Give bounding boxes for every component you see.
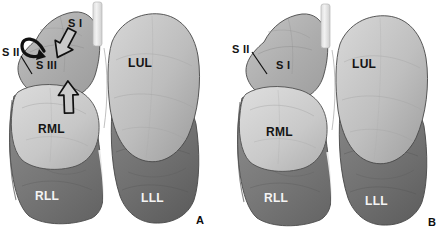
left-upper-lobe <box>108 14 200 162</box>
right-middle-lobe <box>239 87 327 172</box>
panel-a-image <box>0 0 212 237</box>
panel-b: S II S I RML LUL RLL LLL B <box>222 0 443 237</box>
panel-b-image <box>222 0 443 237</box>
trachea <box>93 2 102 46</box>
left-upper-lobe <box>336 16 428 164</box>
right-middle-lobe <box>11 85 99 170</box>
trachea <box>321 4 330 48</box>
lung-segment-figure: S II S III S I RML LUL RLL LLL A <box>0 0 443 237</box>
panel-a: S II S III S I RML LUL RLL LLL A <box>0 0 212 237</box>
